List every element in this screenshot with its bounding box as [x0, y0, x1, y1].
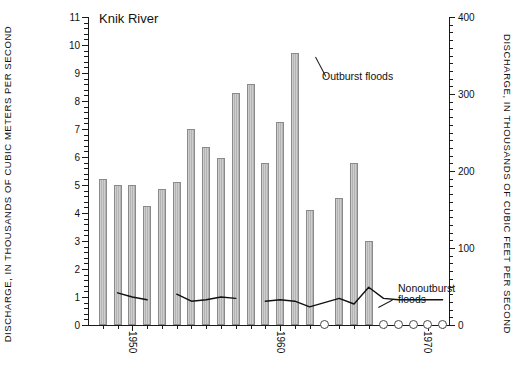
left-axis-title: DISCHARGE, IN THOUSANDS OF CUBIC METERS …	[2, 25, 13, 342]
x-tick-label: 1970	[422, 331, 433, 353]
right-tick-label: 400	[458, 12, 475, 23]
chart-canvas: Knik River DISCHARGE, IN THOUSANDS OF CU…	[0, 0, 514, 367]
annotation-outburst-floods: Outburst floods	[322, 71, 393, 82]
left-tick-label: 9	[74, 68, 80, 79]
left-tick-label: 10	[69, 40, 80, 51]
plot-area: 01234567891011 0100200300400 19501960197…	[88, 17, 450, 326]
left-tick-label: 2	[74, 264, 80, 275]
left-tick-label: 6	[74, 152, 80, 163]
left-tick-label: 4	[74, 208, 80, 219]
left-tick-label: 11	[70, 12, 80, 23]
right-axis-title: DISCHARGE, IN THOUSANDS OF CUBIC FEET PE…	[502, 33, 513, 333]
annotation-nonoutburst-line2: floods	[398, 294, 455, 305]
left-tick-label: 3	[74, 236, 80, 247]
left-tick-label: 0	[74, 320, 80, 331]
line-series-nonoutburst-floods	[88, 17, 450, 326]
left-tick-label: 5	[74, 180, 80, 191]
nonoutburst-line-segment	[177, 294, 236, 301]
x-tick-label: 1960	[275, 331, 286, 353]
right-tick-label: 300	[458, 89, 475, 100]
nonoutburst-line-segment	[118, 293, 148, 300]
right-tick-label: 100	[458, 243, 475, 254]
annotation-nonoutburst-floods: Nonoutburst floods	[398, 283, 455, 305]
x-tick-label: 1950	[127, 331, 138, 353]
left-tick-label: 8	[74, 96, 80, 107]
left-tick-label: 7	[74, 124, 80, 135]
right-tick-label: 200	[458, 166, 475, 177]
left-tick-label: 1	[74, 292, 80, 303]
right-tick-label: 0	[458, 320, 464, 331]
